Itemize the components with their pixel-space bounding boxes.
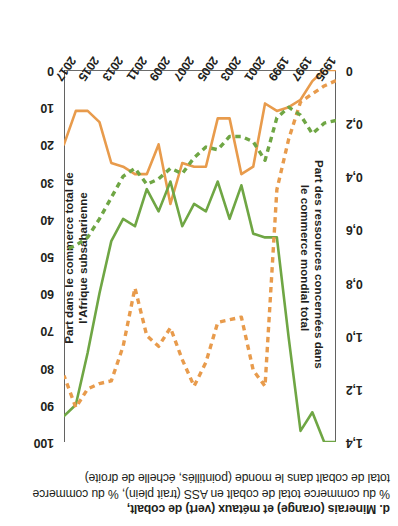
right-y-tick-label: 0: [20, 64, 54, 78]
series-line-1: [64, 182, 336, 442]
left-y-tick-label: 0,4: [346, 170, 380, 184]
caption-line-1: d. Minerais (orange) et métaux (vert) de…: [8, 501, 390, 516]
caption-line-3: total de cobalt dans le monde (pointillé…: [8, 470, 390, 485]
right-y-tick-label: 40: [20, 213, 54, 227]
right-y-tick-label: 90: [20, 399, 54, 413]
figure-caption: d. Minerais (orange) et métaux (vert) de…: [8, 470, 390, 516]
left-y-tick-label: 0,6: [346, 223, 380, 237]
left-y-tick-label: 0: [346, 64, 380, 78]
left-y-tick-label: 1,2: [346, 383, 380, 397]
series-line-2: [64, 81, 336, 408]
left-y-tick-label: 1,4: [346, 436, 380, 450]
left-y-tick-label: 0,2: [346, 117, 380, 131]
right-y-tick-label: 70: [20, 324, 54, 338]
caption-line-2: % du commerce total de cobalt en ASS (tr…: [8, 485, 390, 500]
chart-plot-area: [64, 70, 336, 442]
series-line-0: [64, 70, 336, 204]
left-y-tick-label: 0,8: [346, 277, 380, 291]
right-y-tick-label: 20: [20, 138, 54, 152]
line-chart: [64, 70, 336, 442]
right-y-tick-label: 80: [20, 362, 54, 376]
figure-panel: d. Minerais (orange) et métaux (vert) de…: [0, 0, 398, 526]
series-line-3: [64, 107, 336, 250]
left-y-tick-label: 1,0: [346, 330, 380, 344]
right-y-tick-label: 60: [20, 287, 54, 301]
right-y-tick-label: 100: [20, 436, 54, 450]
right-y-tick-label: 50: [20, 250, 54, 264]
right-y-tick-label: 30: [20, 176, 54, 190]
right-y-tick-label: 10: [20, 101, 54, 115]
